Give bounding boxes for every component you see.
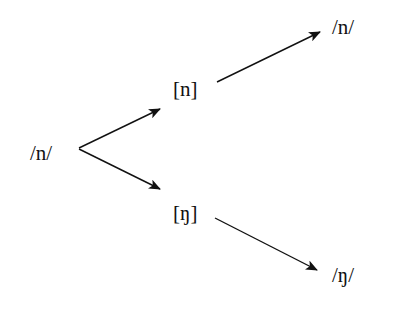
- arrow-source-to-n: [79, 109, 160, 148]
- arrow-n-to-phoneme-n: [217, 32, 320, 82]
- target-phoneme-eng-label: /ŋ/: [332, 265, 354, 286]
- allophone-n-label: [n]: [173, 79, 198, 100]
- source-phoneme-label: /n/: [30, 143, 52, 164]
- arrow-source-to-eng: [79, 149, 160, 189]
- allophone-eng-label: [ŋ]: [173, 203, 197, 224]
- arrow-eng-to-phoneme-eng: [215, 218, 317, 270]
- target-phoneme-n-label: /n/: [332, 17, 354, 38]
